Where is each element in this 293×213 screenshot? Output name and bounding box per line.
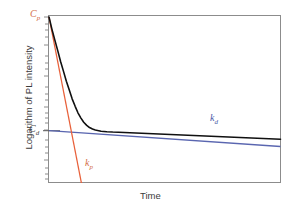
kd-subscript: d <box>214 118 218 126</box>
plot-frame <box>49 16 281 183</box>
cd-annotation-label: Cd <box>29 124 39 137</box>
kp-annotation-label: kp <box>85 158 93 171</box>
y-axis-label: Logarithm of PL intensity <box>23 18 34 178</box>
kd-annotation-label: kd <box>210 113 218 126</box>
y-axis-tick-marks <box>44 17 48 179</box>
cp-subscript: p <box>37 14 41 22</box>
figure-root: Logarithm of PL intensity Time Cp Cd kp … <box>0 0 293 213</box>
plot-canvas <box>0 0 293 213</box>
cd-symbol: C <box>29 123 36 134</box>
cp-annotation-label: Cp <box>30 9 40 22</box>
cd-subscript: d <box>36 129 40 137</box>
cp-symbol: C <box>30 8 37 19</box>
kp-subscript: p <box>89 163 93 171</box>
x-axis-label: Time <box>140 190 161 201</box>
